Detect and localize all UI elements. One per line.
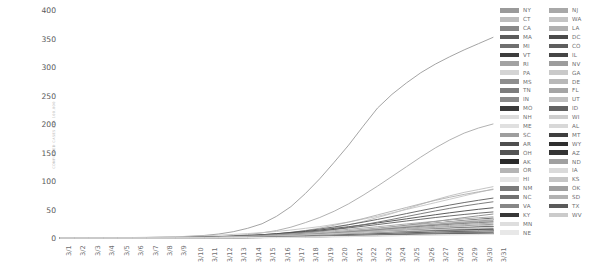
x-tick-label: 3/13 (241, 247, 249, 262)
legend-item-nm[interactable]: NM (500, 184, 547, 193)
legend-item-vt[interactable]: VT (500, 50, 547, 59)
legend-label: AR (523, 141, 531, 147)
series-line (60, 124, 493, 238)
legend-swatch-icon (500, 204, 519, 209)
legend-label: WA (572, 16, 581, 22)
legend-item-wv[interactable]: WV (549, 210, 596, 219)
legend-item-va[interactable]: VA (500, 202, 547, 211)
legend-label: OH (523, 150, 532, 156)
legend-swatch-icon (549, 97, 568, 102)
legend-item-ri[interactable]: RI (500, 59, 547, 68)
series-lines (60, 10, 493, 238)
x-tick-label: 3/14 (255, 247, 263, 262)
x-tick-label: 3/27 (443, 247, 451, 262)
legend-swatch-icon (500, 44, 519, 49)
legend-swatch-icon (500, 61, 519, 66)
legend-item-de[interactable]: DE (549, 77, 596, 86)
x-tick-label: 3/24 (399, 247, 407, 262)
legend-item-oh[interactable]: OH (500, 148, 547, 157)
legend-swatch-icon (549, 79, 568, 84)
legend-item-mt[interactable]: MT (549, 130, 596, 139)
legend-item-ny[interactable]: NY (500, 6, 547, 15)
x-tick-label: 3/15 (269, 247, 277, 262)
legend-swatch-icon (549, 8, 568, 13)
legend-item-ne[interactable]: NE (500, 228, 547, 237)
plot-area (60, 10, 493, 238)
legend-swatch-icon (500, 133, 519, 138)
legend-item-ky[interactable]: KY (500, 210, 547, 219)
legend-item-ks[interactable]: KS (549, 175, 596, 184)
legend-item-fl[interactable]: FL (549, 86, 596, 95)
legend-item-ga[interactable]: GA (549, 68, 596, 77)
legend-item-nv[interactable]: NV (549, 59, 596, 68)
legend-item-nh[interactable]: NH (500, 113, 547, 122)
legend-swatch-icon (549, 159, 568, 164)
legend-label: VA (523, 203, 531, 209)
legend-item-sc[interactable]: SC (500, 130, 547, 139)
legend-swatch-icon (549, 204, 568, 209)
legend-item-in[interactable]: IN (500, 95, 547, 104)
legend-item-dc[interactable]: DC (549, 33, 596, 42)
y-tick-label: 50 (46, 205, 56, 214)
legend-item-ca[interactable]: CA (500, 24, 547, 33)
legend-item-ia[interactable]: IA (549, 166, 596, 175)
legend-item-tx[interactable]: TX (549, 202, 596, 211)
legend-item-sd[interactable]: SD (549, 193, 596, 202)
legend-label: FL (572, 87, 579, 93)
legend-item-mo[interactable]: MO (500, 104, 547, 113)
legend-label: WY (572, 141, 581, 147)
legend-label: ND (572, 159, 581, 165)
legend-item-al[interactable]: AL (549, 122, 596, 131)
x-tick-label: 3/21 (356, 247, 364, 262)
legend-item-ak[interactable]: AK (500, 157, 547, 166)
legend-swatch-icon (500, 115, 519, 120)
legend-swatch-icon (500, 70, 519, 75)
x-tick-label: 3/22 (371, 247, 379, 262)
legend-item-wi[interactable]: WI (549, 113, 596, 122)
legend-item-wy[interactable]: WY (549, 139, 596, 148)
legend-item-hi[interactable]: HI (500, 175, 547, 184)
legend-label: MO (523, 105, 533, 111)
legend-item-la[interactable]: LA (549, 24, 596, 33)
legend-item-wa[interactable]: WA (549, 15, 596, 24)
legend-swatch-icon (549, 53, 568, 58)
legend-item-me[interactable]: ME (500, 122, 547, 131)
legend-item-co[interactable]: CO (549, 42, 596, 51)
legend-swatch-icon (500, 26, 519, 31)
legend-item-ct[interactable]: CT (500, 15, 547, 24)
legend-label: AK (523, 159, 531, 165)
x-tick-label: 3/26 (428, 247, 436, 262)
legend-item-ar[interactable]: AR (500, 139, 547, 148)
legend-swatch-icon (500, 195, 519, 200)
legend-swatch-icon (549, 186, 568, 191)
legend-swatch-icon (500, 142, 519, 147)
legend-item-id[interactable]: ID (549, 104, 596, 113)
legend-item-ma[interactable]: MA (500, 33, 547, 42)
legend-item-ms[interactable]: MS (500, 77, 547, 86)
legend-label: WI (572, 114, 580, 120)
legend-item-ok[interactable]: OK (549, 184, 596, 193)
legend-label: CT (523, 16, 531, 22)
legend-item-az[interactable]: AZ (549, 148, 596, 157)
legend-label: NH (523, 114, 532, 120)
legend-column-1: NYCTCAMAMIVTRIPAMSTNINMONHMESCAROHAKORHI… (500, 6, 547, 264)
x-tick-label: 3/29 (472, 247, 480, 262)
legend-item-nd[interactable]: ND (549, 157, 596, 166)
legend-label: OK (572, 185, 580, 191)
legend-item-nc[interactable]: NC (500, 193, 547, 202)
legend: NYCTCAMAMIVTRIPAMSTNINMONHMESCAROHAKORHI… (500, 6, 597, 264)
legend-item-mn[interactable]: MN (500, 219, 547, 228)
legend-item-or[interactable]: OR (500, 166, 547, 175)
legend-label: OR (523, 167, 532, 173)
y-tick-label: 250 (42, 91, 57, 100)
legend-label: MA (523, 34, 532, 40)
legend-item-mi[interactable]: MI (500, 42, 547, 51)
legend-item-pa[interactable]: PA (500, 68, 547, 77)
legend-item-tn[interactable]: TN (500, 86, 547, 95)
x-tick-label: 3/20 (342, 247, 350, 262)
legend-label: PA (523, 70, 530, 76)
legend-item-nj[interactable]: NJ (549, 6, 596, 15)
legend-item-il[interactable]: IL (549, 50, 596, 59)
legend-item-ut[interactable]: UT (549, 95, 596, 104)
legend-label: DE (572, 79, 580, 85)
